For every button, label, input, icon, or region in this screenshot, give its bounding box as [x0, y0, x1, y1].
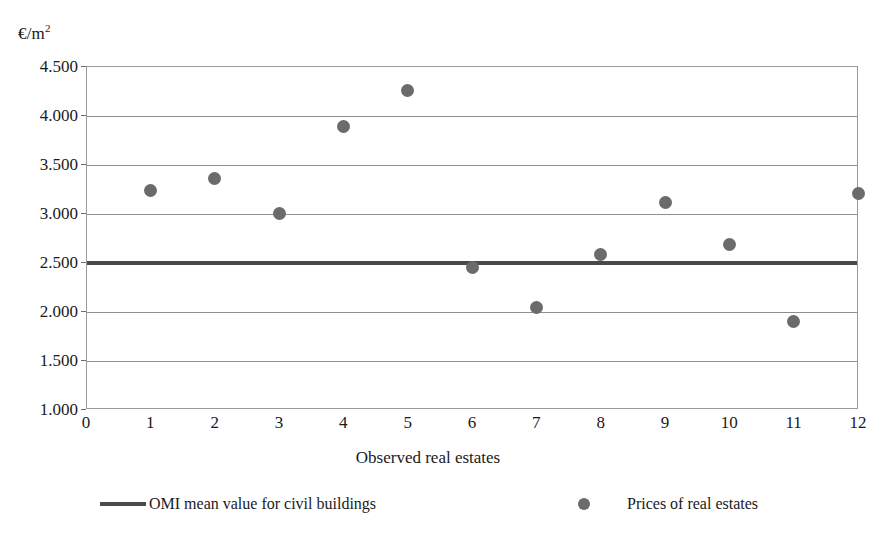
x-axis-tick-label: 1 [130, 414, 170, 432]
gridline [87, 361, 857, 362]
y-axis-tick-label: 1.500 [6, 352, 78, 369]
x-axis-tick-label: 4 [323, 414, 363, 432]
x-axis-tick-label: 0 [66, 414, 106, 432]
legend-entry-prices: Prices of real estates [578, 496, 758, 512]
x-axis-tick-label: 8 [581, 414, 621, 432]
x-axis-tick-label: 10 [709, 414, 749, 432]
y-axis-tick-mark [81, 213, 86, 214]
plot-area [86, 66, 858, 409]
x-axis-tick-label: 5 [388, 414, 428, 432]
y-axis-tick-mark [81, 66, 86, 67]
data-point [208, 172, 221, 185]
y-axis-tick-label: 2.000 [6, 303, 78, 320]
data-point [594, 248, 607, 261]
x-axis-tick-label: 11 [774, 414, 814, 432]
data-point [401, 84, 414, 97]
x-axis-tick-label: 3 [259, 414, 299, 432]
legend-dot-swatch-icon [578, 498, 590, 510]
legend-line-swatch-icon [100, 502, 146, 506]
y-axis-tick-mark [81, 360, 86, 361]
y-axis-tick-mark [81, 262, 86, 263]
x-axis-tick-label: 12 [838, 414, 878, 432]
gridline [87, 214, 857, 215]
legend-label-prices: Prices of real estates [627, 496, 758, 512]
y-axis-tick-mark [81, 409, 86, 410]
legend-label-omi-line: OMI mean value for civil buildings [149, 496, 376, 512]
gridline [87, 116, 857, 117]
x-axis-tick-label: 9 [645, 414, 685, 432]
y-axis-tick-label: 4.500 [6, 58, 78, 75]
gridline [87, 165, 857, 166]
data-point [144, 184, 157, 197]
x-axis-title: Observed real estates [0, 448, 874, 468]
y-axis-tick-label: 4.000 [6, 107, 78, 124]
data-point [466, 261, 479, 274]
x-axis-tick-label: 7 [516, 414, 556, 432]
x-axis-tick-label: 6 [452, 414, 492, 432]
y-axis-tick-label: 3.000 [6, 205, 78, 222]
data-point [852, 187, 865, 200]
data-point [273, 207, 286, 220]
y-axis-tick-label: 2.500 [6, 254, 78, 271]
y-axis-tick-mark [81, 164, 86, 165]
chart-legend: OMI mean value for civil buildings Price… [0, 496, 892, 526]
y-axis-tick-mark [81, 311, 86, 312]
gridline [87, 312, 857, 313]
y-axis-tick-label: 3.500 [6, 156, 78, 173]
x-axis-tick-label: 2 [195, 414, 235, 432]
data-point [337, 120, 350, 133]
scatter-chart: €/m2 1.0001.5002.0002.5003.0003.5004.000… [0, 0, 892, 544]
legend-entry-omi-line: OMI mean value for civil buildings [100, 496, 376, 512]
y-axis-tick-mark [81, 115, 86, 116]
data-point [530, 301, 543, 314]
data-point [659, 196, 672, 209]
